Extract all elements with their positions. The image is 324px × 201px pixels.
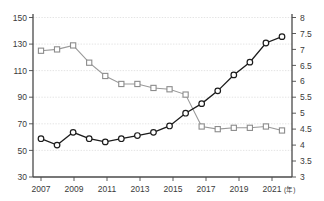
y-right-tick-4.5: 4.5 <box>300 124 312 134</box>
x-tick-2011: 2011 <box>98 184 117 194</box>
y-left-tick-70: 70 <box>18 119 28 129</box>
square-series-line <box>41 45 282 130</box>
y-right-tick-3: 3 <box>300 172 305 182</box>
circle-series-point <box>102 139 108 145</box>
square-series-point <box>103 73 108 78</box>
x-tick-2019: 2019 <box>230 184 249 194</box>
x-tick-2007: 2007 <box>32 184 51 194</box>
x-tick-2021: 2021 <box>263 184 282 194</box>
dual-axis-line-chart: 150 130 110 90 70 50 30 8 7.5 7 6.5 <box>0 0 324 201</box>
y-left-tick-110: 110 <box>13 66 27 76</box>
square-series-point <box>71 43 76 48</box>
circle-series-point <box>263 40 269 46</box>
y-axis-right: 8 7.5 7 6.5 6 5.5 5 4.5 4 3.5 3 <box>292 13 312 183</box>
y-right-tick-5: 5 <box>300 108 305 118</box>
circle-series-point <box>247 59 253 65</box>
y-left-tick-130: 130 <box>13 39 27 49</box>
y-left-tick-50: 50 <box>18 146 28 156</box>
square-series-point <box>54 47 59 52</box>
series-square-group <box>38 43 284 133</box>
circle-series-point <box>151 130 157 136</box>
square-series-point <box>263 124 268 129</box>
circle-series-point <box>38 136 44 142</box>
square-series-point <box>87 60 92 65</box>
circle-series-point <box>54 142 60 148</box>
x-axis: 2007 2009 2011 2013 2015 2017 2019 2021 … <box>32 177 296 194</box>
y-right-tick-7: 7 <box>300 45 305 55</box>
x-tick-2015: 2015 <box>164 184 183 194</box>
circle-series-point <box>167 123 173 129</box>
square-series-point <box>247 125 252 130</box>
y-right-tick-6: 6 <box>300 76 305 86</box>
y-right-tick-5.5: 5.5 <box>300 92 312 102</box>
y-axis-left: 150 130 110 90 70 50 30 <box>13 13 33 183</box>
circle-series-point <box>279 34 285 40</box>
y-left-tick-30: 30 <box>18 172 28 182</box>
circle-series-point <box>70 130 76 136</box>
circle-series-point <box>119 136 125 142</box>
chart-container: 150 130 110 90 70 50 30 8 7.5 7 6.5 <box>0 0 324 201</box>
circle-series-point <box>183 110 189 116</box>
y-right-tick-7.5: 7.5 <box>300 29 312 39</box>
x-tick-2013: 2013 <box>131 184 150 194</box>
x-axis-unit-label: (年) <box>284 185 295 194</box>
square-series-point <box>167 87 172 92</box>
circle-series-point <box>215 88 221 94</box>
y-right-tick-6.5: 6.5 <box>300 61 312 71</box>
y-right-tick-8: 8 <box>300 13 305 23</box>
circle-series-line <box>41 37 282 145</box>
square-series-point <box>38 48 43 53</box>
square-series-point <box>135 81 140 86</box>
circle-series-point <box>199 101 205 107</box>
y-left-tick-90: 90 <box>18 92 28 102</box>
square-series-point <box>279 128 284 133</box>
x-tick-2009: 2009 <box>65 184 84 194</box>
circle-series-point <box>231 72 237 78</box>
y-right-tick-4: 4 <box>300 140 305 150</box>
square-series-point <box>151 85 156 90</box>
x-tick-2017: 2017 <box>197 184 216 194</box>
square-series-point <box>199 124 204 129</box>
y-left-tick-150: 150 <box>13 13 27 23</box>
circle-series-point <box>86 136 92 142</box>
y-right-tick-3.5: 3.5 <box>300 156 312 166</box>
circle-series-point <box>135 133 141 139</box>
square-series-point <box>231 125 236 130</box>
square-series-point <box>119 81 124 86</box>
square-series-point <box>215 127 220 132</box>
square-series-point <box>183 92 188 97</box>
